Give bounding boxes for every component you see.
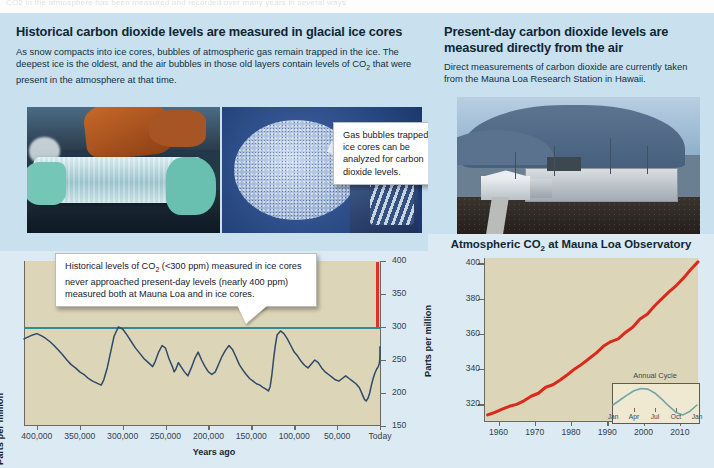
left-panel-heading: Historical carbon dioxide levels are mea… (16, 24, 414, 40)
x-tick-label: Today (369, 431, 392, 441)
y-tick-label: 250 (392, 354, 406, 364)
right-panel-body: Direct measurements of carbon dioxide ar… (444, 61, 700, 86)
y-tick-label: 400 (466, 257, 480, 267)
y-tick-label: 340 (466, 363, 480, 373)
right-panel-heading: Present-day carbon dioxide levels are me… (444, 24, 700, 55)
annual-cycle-inset: Annual Cycle JanAprJulOctJan (612, 372, 698, 422)
callout-historical-levels: Historical levels of CO2 (<300 ppm) meas… (55, 253, 317, 307)
photo-mauna-loa-observatory (457, 97, 700, 234)
y-tick-label: 400 (392, 255, 406, 265)
left-intro-text: Historical carbon dioxide levels are mea… (0, 13, 428, 87)
y-tick-label: 380 (466, 293, 480, 303)
x-tick-label: 100,000 (279, 431, 310, 441)
x-tick (208, 425, 209, 430)
x-tick (380, 425, 381, 430)
ice-core-y-axis-title: Parts per million (0, 37, 5, 465)
y-tick-label: 200 (392, 387, 406, 397)
annual-cycle-x-tick (655, 408, 656, 412)
mauna-loa-y-axis-title: Parts per million (423, 91, 433, 377)
annual-cycle-x-tick (676, 408, 677, 412)
y-tick-label: 150 (392, 420, 406, 430)
scan-bleed-strip: CO2 in the atmosphere has been measured … (0, 0, 714, 14)
x-tick-label: 200,000 (193, 431, 224, 441)
y-tick (380, 360, 386, 361)
x-tick (499, 421, 500, 426)
x-tick (80, 425, 81, 430)
annual-cycle-x-tick (634, 408, 635, 412)
x-tick-label: 350,000 (64, 431, 95, 441)
y-tick-label: 300 (392, 321, 406, 331)
x-tick-label: 1990 (598, 427, 617, 437)
x-tick-label: 1970 (525, 427, 544, 437)
mauna-loa-chart-title: Atmospheric CO2 at Mauna Loa Observatory (451, 238, 692, 253)
x-tick (535, 421, 536, 426)
y-tick (380, 261, 386, 262)
x-tick-label: 250,000 (150, 431, 181, 441)
present-day-spike-marker (376, 262, 379, 327)
annual-cycle-x-tick-label: Jan (692, 413, 703, 420)
ice-core-x-axis-title: Years ago (193, 447, 236, 457)
x-tick-label: 300,000 (107, 431, 138, 441)
x-tick (294, 425, 295, 430)
right-intro-text: Present-day carbon dioxide levels are me… (428, 13, 714, 86)
left-panel-body: As snow compacts into ice cores, bubbles… (16, 46, 414, 87)
scan-bleed-text: CO2 in the atmosphere has been measured … (0, 0, 714, 9)
callout-tail (237, 305, 268, 324)
annual-cycle-x-tick-label: Jul (651, 413, 659, 420)
x-tick-label: 2010 (670, 427, 689, 437)
x-tick (337, 425, 338, 430)
photo-ice-core-sample (27, 107, 220, 233)
mauna-loa-chart: Atmospheric CO2 at Mauna Loa Observatory… (428, 234, 714, 468)
x-tick-label: 2000 (634, 427, 653, 437)
y-tick-label: 360 (466, 328, 480, 338)
callout-historical-levels-text: Historical levels of CO2 (<300 ppm) meas… (65, 261, 302, 299)
x-tick-label: 50,000 (324, 431, 350, 441)
annual-cycle-x-tick-label: Jan (608, 413, 619, 420)
infographic-page: CO2 in the atmosphere has been measured … (0, 0, 714, 468)
x-tick (607, 421, 608, 426)
x-tick (251, 425, 252, 430)
x-tick-label: 1980 (561, 427, 580, 437)
y-tick (380, 327, 386, 328)
annual-cycle-title: Annual Cycle (633, 371, 677, 380)
x-tick (571, 421, 572, 426)
y-tick (380, 393, 386, 394)
x-tick (123, 425, 124, 430)
x-tick-label: 1960 (489, 427, 508, 437)
x-tick-label: 150,000 (236, 431, 267, 441)
y-tick-label: 320 (466, 398, 480, 408)
ice-core-y-axis (380, 261, 381, 426)
annual-cycle-x-tick-label: Apr (629, 413, 639, 420)
y-tick-label: 350 (392, 288, 406, 298)
annual-cycle-x-tick-label: Oct (671, 413, 681, 420)
y-tick (380, 294, 386, 295)
x-tick-label: 400,000 (21, 431, 52, 441)
x-tick (37, 425, 38, 430)
x-tick (166, 425, 167, 430)
